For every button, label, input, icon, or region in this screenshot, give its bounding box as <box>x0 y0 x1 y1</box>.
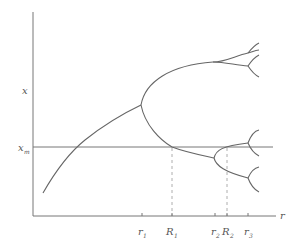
svg-text:R: R <box>221 226 230 237</box>
tick-label-r2: r 2 <box>211 226 220 239</box>
fixed-point-branch <box>43 105 141 193</box>
xm-label: x m <box>18 142 30 155</box>
period4-upper-e <box>248 55 259 66</box>
superstable-guides <box>172 148 227 216</box>
period2-lower-branch <box>141 105 214 158</box>
period4-lower-e <box>248 167 259 178</box>
tick-label-R2: R 2 <box>221 226 234 239</box>
bifurcation-diagram: x r x m r 1 R 1 r 2 R 2 r 3 <box>0 0 300 249</box>
svg-text:R: R <box>165 226 174 237</box>
y-axis-label: x <box>22 85 28 96</box>
axes <box>33 12 276 216</box>
svg-text:2: 2 <box>229 232 234 239</box>
period4-upper-a <box>213 53 248 62</box>
bifurcation-curves <box>43 43 259 193</box>
tick-label-r1: r 1 <box>138 226 147 239</box>
svg-text:1: 1 <box>143 232 147 239</box>
svg-text:2: 2 <box>215 232 220 239</box>
tick-label-R1: R 1 <box>165 226 178 239</box>
svg-text:3: 3 <box>249 232 253 239</box>
x-axis-label: r <box>280 210 286 221</box>
svg-text:m: m <box>24 148 30 155</box>
svg-text:1: 1 <box>174 232 178 239</box>
period4-upper-b <box>213 62 248 66</box>
period4-upper-f <box>248 66 259 77</box>
tick-label-r3: r 3 <box>244 226 253 239</box>
period4-lower-b <box>214 158 248 178</box>
period4-lower-d <box>248 143 259 156</box>
period2-upper-branch <box>141 62 213 105</box>
period4-lower-c <box>248 130 259 143</box>
period4-lower-f <box>248 178 259 192</box>
period4-lower-a <box>214 143 248 158</box>
